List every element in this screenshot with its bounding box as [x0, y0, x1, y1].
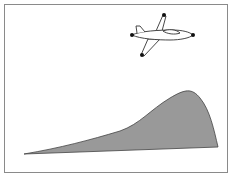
hill-shape — [24, 91, 218, 154]
nose-dot — [191, 33, 195, 37]
upper-wing-dot — [162, 13, 166, 17]
diagram-canvas — [0, 0, 230, 175]
airplane-icon — [132, 15, 193, 56]
tail-dot — [130, 33, 134, 37]
lower-wing-dot — [140, 53, 144, 57]
